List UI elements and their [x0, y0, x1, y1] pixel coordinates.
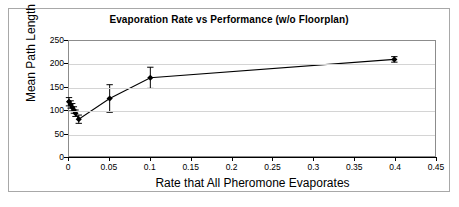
data-point-marker: [107, 95, 113, 101]
x-tick-mark: [109, 157, 110, 161]
x-tick-mark: [436, 157, 437, 161]
chart-page: Evaporation Rate vs Performance (w/o Flo…: [0, 0, 459, 207]
gridline-horizontal: [69, 111, 435, 112]
y-tick-mark: [64, 40, 68, 41]
x-tick-label: 0.2: [212, 162, 252, 172]
y-tick-label: 100: [24, 105, 64, 115]
y-tick-label: 150: [24, 82, 64, 92]
x-tick-mark: [354, 157, 355, 161]
x-tick-mark: [272, 157, 273, 161]
x-tick-label: 0.4: [375, 162, 415, 172]
x-tick-mark: [313, 157, 314, 161]
data-point-marker: [391, 56, 397, 62]
y-tick-mark: [64, 134, 68, 135]
x-tick-label: 0.45: [416, 162, 456, 172]
x-tick-label: 0: [48, 162, 88, 172]
x-tick-mark: [191, 157, 192, 161]
y-tick-label: 250: [24, 35, 64, 45]
data-point-marker: [76, 116, 82, 122]
x-tick-mark: [150, 157, 151, 161]
y-tick-mark: [64, 110, 68, 111]
plot-area: [68, 40, 436, 157]
x-tick-label: 0.05: [89, 162, 129, 172]
y-tick-label: 0: [24, 152, 64, 162]
gridline-horizontal: [69, 88, 435, 89]
x-tick-label: 0.15: [171, 162, 211, 172]
x-tick-mark: [68, 157, 69, 161]
x-axis-title: Rate that All Pheromone Evaporates: [68, 176, 437, 190]
x-tick-mark: [395, 157, 396, 161]
x-axis-line: [68, 157, 437, 158]
data-series-layer: [69, 41, 435, 156]
x-tick-mark: [232, 157, 233, 161]
y-tick-label: 200: [24, 58, 64, 68]
x-tick-label: 0.1: [130, 162, 170, 172]
x-tick-label: 0.35: [334, 162, 374, 172]
gridline-horizontal: [69, 64, 435, 65]
y-axis-tick-labels: 050100150200250: [20, 40, 64, 157]
chart-title: Evaporation Rate vs Performance (w/o Flo…: [8, 14, 450, 25]
y-tick-mark: [64, 63, 68, 64]
y-tick-mark: [64, 87, 68, 88]
x-tick-label: 0.25: [252, 162, 292, 172]
y-tick-label: 50: [24, 129, 64, 139]
gridline-horizontal: [69, 135, 435, 136]
x-tick-label: 0.3: [293, 162, 333, 172]
data-point-marker: [147, 75, 153, 81]
